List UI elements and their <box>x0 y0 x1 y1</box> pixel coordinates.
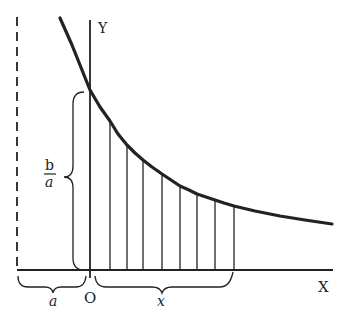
y-axis-label: Y <box>97 20 108 36</box>
height-label-denominator: a <box>45 174 53 190</box>
offset-label-a: a <box>49 293 57 309</box>
hyperbola-curve <box>60 18 332 224</box>
origin-label: O <box>84 289 96 307</box>
area-hatching <box>110 121 234 270</box>
offset-brace-a <box>18 276 86 293</box>
hyperbola-diagram: Y X O a x b a <box>0 0 345 326</box>
diagram-canvas: Y X O a x b a <box>0 0 345 326</box>
height-brace <box>64 92 84 270</box>
interval-label-x: x <box>157 293 165 309</box>
height-label-numerator: b <box>45 157 54 173</box>
x-axis-label: X <box>318 278 329 296</box>
interval-brace-x <box>95 272 233 293</box>
